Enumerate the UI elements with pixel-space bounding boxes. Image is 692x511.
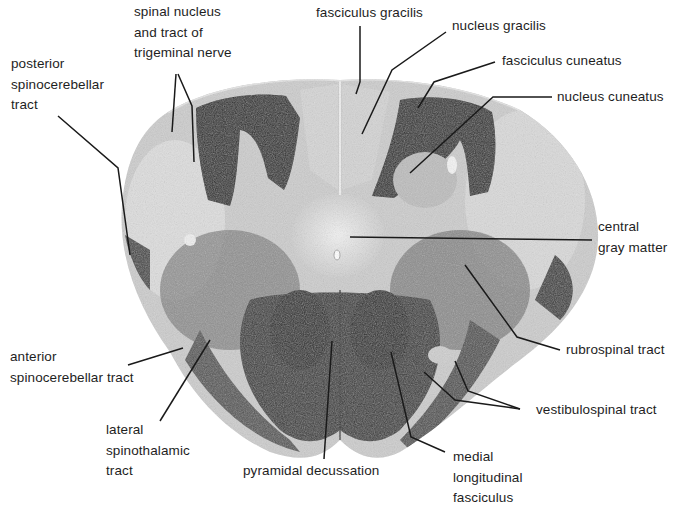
label-vestibulospinal-tract: vestibulospinal tract xyxy=(536,400,657,421)
label-line: and tract of xyxy=(134,23,232,44)
label-line: fasciculus cuneatus xyxy=(502,51,622,72)
medulla-section-figure: spinal nucleusand tract oftrigeminal ner… xyxy=(0,0,692,511)
label-line: fasciculus gracilis xyxy=(316,3,423,24)
label-line: spinothalamic xyxy=(106,441,190,462)
label-nucleus-gracilis: nucleus gracilis xyxy=(452,16,546,37)
label-line: anterior xyxy=(10,347,134,368)
label-medial-longitudinal-fasciculus: mediallongitudinalfasciculus xyxy=(453,447,523,509)
label-posterior-spinocerebellar: posteriorspinocerebellartract xyxy=(11,54,104,116)
label-line: nucleus cuneatus xyxy=(557,87,664,108)
label-nucleus-cuneatus: nucleus cuneatus xyxy=(557,87,664,108)
label-spinal-nucleus-trigeminal: spinal nucleusand tract oftrigeminal ner… xyxy=(134,2,232,64)
label-line: nucleus gracilis xyxy=(452,16,546,37)
label-line: spinocerebellar tract xyxy=(10,368,134,389)
label-central-gray-matter: centralgray matter xyxy=(598,217,667,258)
label-line: trigeminal nerve xyxy=(134,43,232,64)
label-line: pyramidal decussation xyxy=(243,461,379,482)
label-line: fasciculus xyxy=(453,488,523,509)
label-line: central xyxy=(598,217,667,238)
label-lateral-spinothalamic: lateralspinothalamictract xyxy=(106,420,190,482)
label-line: vestibulospinal tract xyxy=(536,400,657,421)
label-line: lateral xyxy=(106,420,190,441)
label-line: gray matter xyxy=(598,238,667,259)
label-pyramidal-decussation: pyramidal decussation xyxy=(243,461,379,482)
label-fasciculus-cuneatus: fasciculus cuneatus xyxy=(502,51,622,72)
leader-line-posterior-spinocerebellar xyxy=(58,116,130,255)
label-line: tract xyxy=(11,95,104,116)
label-line: medial xyxy=(453,447,523,468)
label-line: spinocerebellar xyxy=(11,75,104,96)
label-anterior-spinocerebellar: anteriorspinocerebellar tract xyxy=(10,347,134,388)
label-line: longitudinal xyxy=(453,468,523,489)
label-line: rubrospinal tract xyxy=(566,340,665,361)
label-line: spinal nucleus xyxy=(134,2,232,23)
label-line: posterior xyxy=(11,54,104,75)
label-line: tract xyxy=(106,461,190,482)
label-rubrospinal-tract: rubrospinal tract xyxy=(566,340,665,361)
label-fasciculus-gracilis: fasciculus gracilis xyxy=(316,3,423,24)
